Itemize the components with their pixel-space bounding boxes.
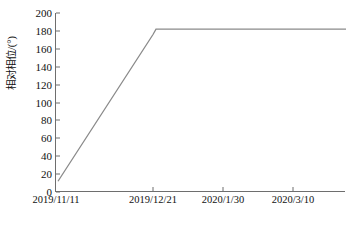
y-tick-label: 180: [36, 25, 53, 36]
y-tick-label: 20: [41, 169, 52, 180]
x-tick-label: 2019/11/11: [32, 195, 79, 206]
x-tick-label: 2020/3/10: [272, 195, 315, 206]
y-tick-label: 60: [41, 133, 52, 144]
y-tick-label: 140: [36, 61, 53, 72]
y-tick-label: 200: [36, 8, 53, 19]
x-tick-label: 2020/1/30: [202, 195, 245, 206]
plot-area: 020406080100120140160180200 2019/11/1120…: [55, 13, 345, 192]
y-tick-label: 100: [36, 97, 53, 108]
y-tick-label: 80: [41, 115, 52, 126]
y-axis-title: 相对相位/(°): [3, 8, 19, 118]
x-tick-label: 2019/12/21: [129, 195, 177, 206]
data-series-layer: [56, 13, 346, 192]
series-line-relative-phase: [58, 29, 346, 181]
y-tick-label: 120: [36, 79, 53, 90]
phase-line-chart: 相对相位/(°) 020406080100120140160180200 201…: [0, 0, 356, 226]
y-tick-label: 160: [36, 43, 53, 54]
y-tick-label: 40: [41, 151, 52, 162]
